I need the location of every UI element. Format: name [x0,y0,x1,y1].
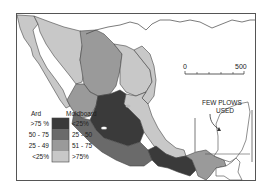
legend-moldboard-1: <25% [72,120,89,127]
legend-swatch-1 [52,118,69,129]
legend-swatch-3 [52,140,69,151]
legend-ard-3: 25 - 49 [29,142,50,149]
scale-end-label: 500 [235,63,247,70]
legend-ard-2: 50 - 75 [29,131,50,138]
legend-swatch-2 [52,129,69,140]
legend-ard-4: <25% [32,153,49,160]
legend-swatch-4 [52,151,69,162]
legend-moldboard-4: >75% [72,153,89,160]
lake-central [126,105,131,108]
legend-ard-1: >75 % [30,120,49,127]
scale-start-label: 0 [183,63,187,70]
legend-header-moldboard: Moldboard [66,110,97,117]
legend-header-ard: Ard [31,110,42,117]
annotation-used: USED [216,107,234,114]
mexico-plow-map: 0 500 FEW PLOWS USED Ard Moldboard >75 %… [0,0,268,188]
lake-chapala [101,126,107,129]
legend-moldboard-3: 51 - 75 [72,142,93,149]
annotation-few-plows: FEW PLOWS [202,99,242,106]
legend-moldboard-2: 25 - 50 [72,131,93,138]
